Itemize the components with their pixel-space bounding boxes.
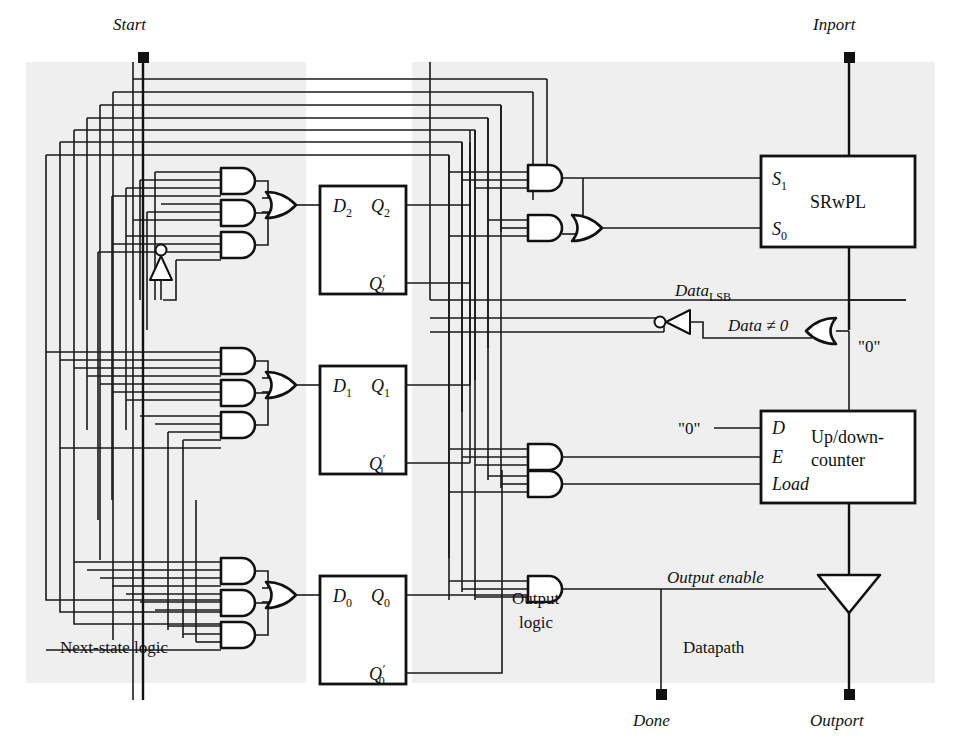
inverter-data-bubble xyxy=(655,317,666,328)
counter-pin-E: E xyxy=(771,447,783,467)
terminal-outport-square xyxy=(844,689,855,700)
label-const-zero-counter: "0" xyxy=(678,419,700,438)
label-output-enable: Output enable xyxy=(667,568,764,587)
schematic-figure: D2 Q2 Q′2 D1 Q1 Q′1 D0 Q0 Q′0 xyxy=(0,0,962,748)
and-gate-d1-b xyxy=(221,380,255,406)
and-gate-d1-a xyxy=(221,348,255,374)
and-gate-d2-c xyxy=(221,232,255,258)
label-next-state-logic: Next-state logic xyxy=(60,638,169,657)
label-data-not-zero: Data ≠ 0 xyxy=(727,316,789,335)
counter-pin-Load: Load xyxy=(771,474,810,494)
and-gate-d0-a xyxy=(221,558,255,584)
counter-pin-D: D xyxy=(771,418,785,438)
and-gate-d2-b xyxy=(221,200,255,226)
and-gate-counter-load xyxy=(528,471,562,497)
and-gate-d2-a xyxy=(221,168,255,194)
and-gate-d1-c xyxy=(221,412,255,438)
counter-title-line2: counter xyxy=(811,450,865,470)
label-datapath: Datapath xyxy=(683,638,745,657)
terminal-inport-square xyxy=(844,52,855,63)
label-done: Done xyxy=(632,711,670,730)
label-const-zero-or: "0" xyxy=(858,337,880,356)
terminal-start-square xyxy=(138,52,149,63)
label-start: Start xyxy=(113,15,147,34)
label-outport: Outport xyxy=(810,711,865,730)
and-gate-s1 xyxy=(528,165,562,191)
and-gate-s0 xyxy=(528,215,562,241)
label-output-logic-1: Output xyxy=(512,589,560,608)
counter-title-line1: Up/down- xyxy=(811,427,884,447)
block-srwpl: S1 S0 SRwPL xyxy=(761,156,915,247)
label-output-logic-2: logic xyxy=(519,613,553,632)
and-gate-counter-enable xyxy=(528,444,562,470)
schematic-canvas: D2 Q2 Q′2 D1 Q1 Q′1 D0 Q0 Q′0 xyxy=(0,0,962,748)
inverter-start-bubble xyxy=(156,245,167,256)
srwpl-title: SRwPL xyxy=(810,192,866,212)
and-gate-d0-b xyxy=(221,590,255,616)
and-gate-d0-c xyxy=(221,622,255,648)
label-inport: Inport xyxy=(812,15,857,34)
terminal-done-square xyxy=(656,689,667,700)
